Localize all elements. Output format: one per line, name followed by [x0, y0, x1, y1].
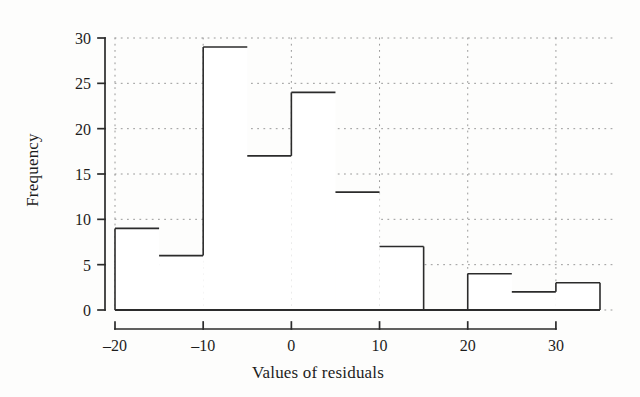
- y-tick-label-25: 25: [75, 75, 91, 92]
- y-tick-label-0: 0: [83, 302, 91, 319]
- x-tick-label-30: 30: [548, 337, 564, 354]
- y-tick-label-30: 30: [75, 30, 91, 47]
- y-tick-label-5: 5: [83, 257, 91, 274]
- histogram-bar: [512, 292, 556, 310]
- histogram-bar: [247, 156, 291, 310]
- x-tick-labels: –20–100102030: [102, 337, 564, 354]
- histogram-chart: 051015202530 –20–100102030 Values of res…: [0, 0, 640, 397]
- histogram-bar: [159, 256, 203, 310]
- y-axis: [98, 38, 105, 310]
- x-axis: [115, 322, 556, 329]
- y-axis-title: Frequency: [23, 133, 42, 207]
- histogram-bar: [468, 274, 512, 310]
- y-tick-label-15: 15: [75, 166, 91, 183]
- x-tick-label--10: –10: [190, 337, 215, 354]
- histogram-bar: [115, 228, 159, 310]
- y-tick-label-20: 20: [75, 121, 91, 138]
- y-tick-labels: 051015202530: [75, 30, 91, 319]
- x-axis-title: Values of residuals: [252, 363, 384, 382]
- histogram-figure: 051015202530 –20–100102030 Values of res…: [0, 0, 640, 397]
- x-tick-label--20: –20: [102, 337, 127, 354]
- x-tick-label-0: 0: [287, 337, 295, 354]
- histogram-bars: [115, 47, 600, 310]
- histogram-bar: [291, 92, 335, 310]
- x-tick-label-10: 10: [372, 337, 388, 354]
- y-tick-label-10: 10: [75, 211, 91, 228]
- histogram-bar: [335, 192, 379, 310]
- histogram-bar: [380, 247, 424, 310]
- x-tick-label-20: 20: [460, 337, 476, 354]
- histogram-bar: [556, 283, 600, 310]
- histogram-bar: [203, 47, 247, 310]
